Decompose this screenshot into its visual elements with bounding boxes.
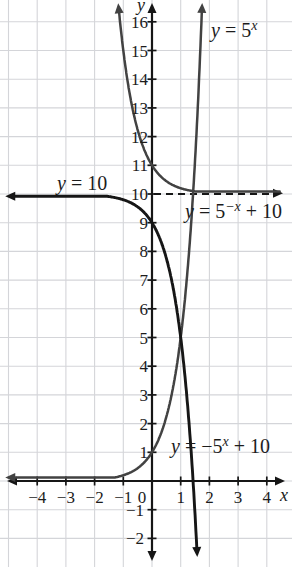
exponential-functions-graph: −4−3−2−10123416151413121110987654321−1−2… bbox=[0, 0, 292, 567]
y-axis-label: y bbox=[135, 0, 145, 15]
curve-end-arrow bbox=[197, 3, 206, 13]
x-tick-label: −2 bbox=[86, 488, 104, 507]
y-tick-label: 8 bbox=[140, 242, 149, 261]
y-tick-label: 16 bbox=[131, 13, 148, 32]
y-tick-label: 1 bbox=[140, 443, 149, 462]
y-tick-label: −1 bbox=[126, 501, 144, 520]
y-tick-label: −2 bbox=[126, 529, 144, 548]
y-tick-label: 7 bbox=[140, 271, 149, 290]
x-tick-label: −3 bbox=[57, 488, 75, 507]
curve-start-arrow bbox=[115, 3, 124, 13]
x-axis-label: x bbox=[279, 485, 288, 505]
y-tick-label: 13 bbox=[131, 99, 148, 118]
curve-5x bbox=[14, 12, 202, 478]
y-tick-label: 6 bbox=[140, 300, 149, 319]
y-tick-label: 2 bbox=[140, 415, 149, 434]
y-tick-label: 11 bbox=[132, 156, 148, 175]
y-axis-bottom-arrow bbox=[148, 551, 157, 561]
y-axis-top-arrow bbox=[148, 3, 157, 13]
y-tick-label: 10 bbox=[131, 185, 148, 204]
x-tick-label: −4 bbox=[28, 488, 47, 507]
graph-canvas: −4−3−2−10123416151413121110987654321−1−2… bbox=[0, 0, 292, 567]
curve-start-arrow bbox=[5, 192, 15, 201]
y-tick-label: 9 bbox=[140, 214, 149, 233]
label-5x: y = 5x bbox=[209, 18, 258, 42]
y-tick-label: 3 bbox=[140, 386, 149, 405]
asymptote-y10 bbox=[154, 189, 283, 198]
label-5negx: y = 5−x + 10 bbox=[183, 199, 282, 223]
x-tick-label: 1 bbox=[176, 488, 185, 507]
y-tick-label: 12 bbox=[131, 128, 148, 147]
y-tick-label: 4 bbox=[140, 357, 149, 376]
label-y10: y = 10 bbox=[55, 172, 107, 195]
y-tick-label: 14 bbox=[131, 70, 149, 89]
y-tick-label: 5 bbox=[140, 329, 149, 348]
x-tick-label: 3 bbox=[234, 488, 243, 507]
x-tick-label: 4 bbox=[263, 488, 272, 507]
y-tick-label: 15 bbox=[131, 42, 148, 61]
asymptote-right-arrow bbox=[273, 189, 283, 198]
curve-end-arrow bbox=[192, 547, 201, 557]
x-tick-label: 2 bbox=[205, 488, 214, 507]
curve-labels: y = 5xy = 10y = 5−x + 10y = −5x + 10 bbox=[55, 18, 282, 458]
label-neg5x: y = −5x + 10 bbox=[169, 434, 270, 458]
